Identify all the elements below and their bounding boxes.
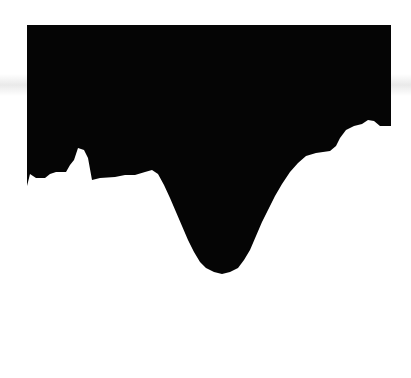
black-silhouette-shape (0, 0, 411, 378)
